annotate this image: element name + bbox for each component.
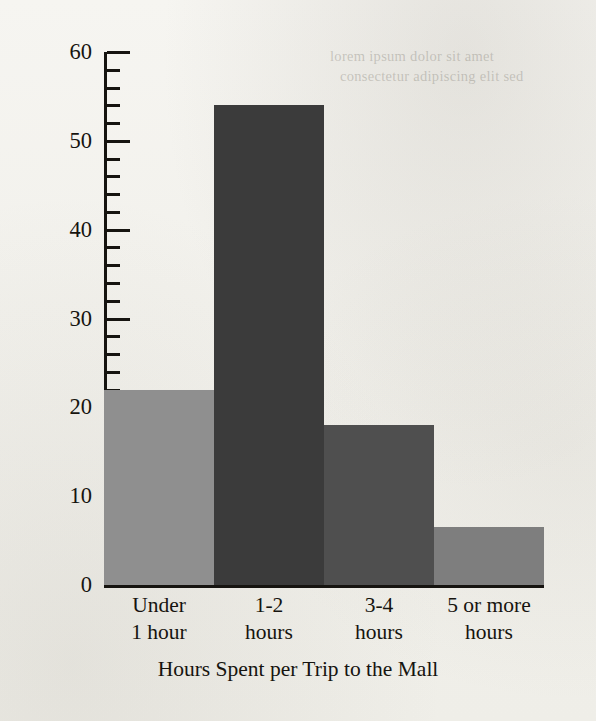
y-tick-minor xyxy=(107,211,120,214)
bar-chart: Number of People 0102030405060 Under1 ho… xyxy=(0,0,596,721)
y-tick-minor xyxy=(107,87,120,90)
y-tick-minor xyxy=(107,122,120,125)
y-tick-label: 50 xyxy=(70,128,93,154)
y-tick-minor xyxy=(107,335,120,338)
y-tick-minor xyxy=(107,353,120,356)
y-tick-minor xyxy=(107,158,120,161)
x-category-label-line: 5 or more xyxy=(416,592,562,619)
y-tick-label: 60 xyxy=(70,39,93,65)
y-tick-label: 40 xyxy=(70,217,93,243)
y-tick-minor xyxy=(107,175,120,178)
x-category-label-line: hours xyxy=(416,619,562,646)
x-category-label: 5 or morehours xyxy=(416,592,562,646)
bar xyxy=(434,527,544,585)
x-axis-title: Hours Spent per Trip to the Mall xyxy=(0,657,596,682)
y-tick-minor xyxy=(107,300,120,303)
x-axis-category-labels: Under1 hour1-2hours3-4hours5 or morehour… xyxy=(104,592,544,654)
bar xyxy=(214,105,324,585)
y-tick-label: 30 xyxy=(70,306,93,332)
y-tick-minor xyxy=(107,246,120,249)
y-tick-minor xyxy=(107,104,120,107)
plot-area: 0102030405060 xyxy=(104,52,544,585)
y-tick-major xyxy=(107,229,130,232)
bar xyxy=(324,425,434,585)
y-tick-label: 20 xyxy=(70,394,93,420)
y-tick-minor xyxy=(107,282,120,285)
y-tick-major xyxy=(107,318,130,321)
y-tick-minor xyxy=(107,193,120,196)
y-tick-minor xyxy=(107,371,120,374)
y-tick-major xyxy=(107,140,130,143)
y-tick-label: 10 xyxy=(70,483,93,509)
bar xyxy=(104,390,214,585)
y-tick-minor xyxy=(107,264,120,267)
x-axis-line xyxy=(104,585,544,588)
y-tick-minor xyxy=(107,69,120,72)
y-tick-major xyxy=(107,51,130,54)
